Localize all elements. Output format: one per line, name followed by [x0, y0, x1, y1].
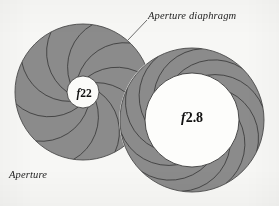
aperture-right-f28	[120, 48, 264, 192]
aperture-diagram-figure: Aperture diaphragm Aperture f22 f2.8	[0, 0, 279, 206]
diaphragm-leader-line	[128, 20, 147, 40]
aperture-diagram-artwork	[0, 0, 279, 206]
